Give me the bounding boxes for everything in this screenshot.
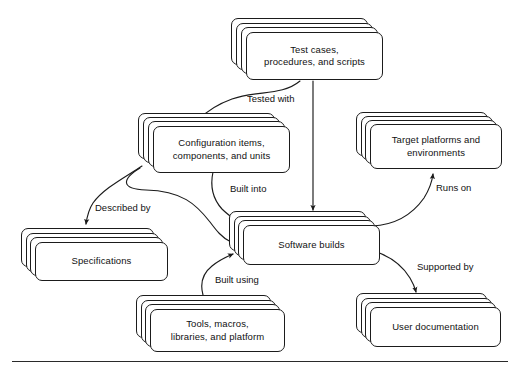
edge-label-built-using: Built using: [215, 274, 259, 285]
node-label: Target platforms and environments: [388, 134, 485, 159]
node-target-platforms[interactable]: Target platforms and environments: [356, 112, 502, 169]
edge-label-described-by: Described by: [95, 202, 150, 213]
node-label: Configuration items, components, and uni…: [169, 137, 275, 162]
card-face[interactable]: Test cases, procedures, and scripts: [246, 32, 383, 80]
footer-rule: [12, 361, 508, 362]
card-face[interactable]: Configuration items, components, and uni…: [153, 126, 290, 173]
node-tools-macros[interactable]: Tools, macros, libraries, and platform: [136, 295, 285, 352]
node-label: User documentation: [388, 321, 483, 333]
edge-described-by-line: [86, 166, 142, 224]
card-face[interactable]: Target platforms and environments: [370, 124, 502, 169]
node-specifications[interactable]: Specifications: [21, 228, 168, 281]
card-face[interactable]: Tools, macros, libraries, and platform: [150, 309, 285, 352]
edge-label-built-into: Built into: [230, 183, 266, 194]
card-face[interactable]: User documentation: [370, 307, 501, 347]
edge-label-tested-with: Tested with: [247, 93, 295, 104]
node-test-cases[interactable]: Test cases, procedures, and scripts: [231, 18, 383, 80]
edge-label-supported-by: Supported by: [417, 261, 474, 272]
node-user-documentation[interactable]: User documentation: [356, 293, 501, 347]
node-software-builds[interactable]: Software builds: [229, 211, 380, 265]
diagram-canvas: Test cases, procedures, and scripts Conf…: [0, 0, 520, 370]
edge-label-runs-on: Runs on: [436, 182, 471, 193]
node-label: Test cases, procedures, and scripts: [260, 44, 369, 69]
node-configuration-items[interactable]: Configuration items, components, and uni…: [138, 113, 290, 173]
edge-runs-on-line: [372, 174, 433, 226]
card-face[interactable]: Software builds: [243, 225, 380, 265]
node-label: Software builds: [274, 239, 348, 251]
edge-supported-by-line: [377, 252, 416, 292]
card-face[interactable]: Specifications: [35, 242, 168, 281]
node-label: Tools, macros, libraries, and platform: [167, 318, 269, 343]
node-label: Specifications: [68, 255, 136, 267]
